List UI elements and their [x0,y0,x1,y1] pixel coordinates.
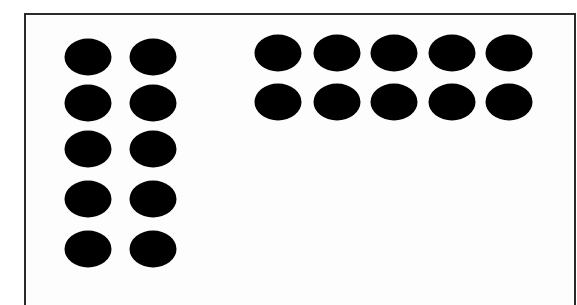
dot [314,35,361,72]
dot [371,84,418,121]
dot [429,84,476,121]
dot [429,35,476,72]
diagram-frame [24,13,576,305]
dot [314,84,361,121]
dot [486,84,533,121]
dot [255,35,302,72]
right-dot-group [26,15,574,305]
dot [371,35,418,72]
dot [255,84,302,121]
dot [486,35,533,72]
